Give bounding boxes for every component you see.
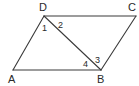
vertex-label-a: A xyxy=(8,73,16,85)
edge-bc xyxy=(101,16,136,70)
diagonal-db xyxy=(44,16,101,70)
vertex-label-b: B xyxy=(97,73,104,85)
vertex-label-c: C xyxy=(128,1,136,13)
edge-da xyxy=(13,16,44,70)
angle-label-3: 3 xyxy=(95,55,100,65)
parallelogram-diagram: A B C D 1 2 3 4 xyxy=(0,0,139,86)
angle-label-2: 2 xyxy=(58,20,63,30)
angle-label-1: 1 xyxy=(42,23,47,33)
angle-label-4: 4 xyxy=(83,59,88,69)
vertex-label-d: D xyxy=(39,1,47,13)
